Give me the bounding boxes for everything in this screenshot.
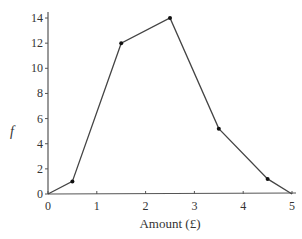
x-axis-line (48, 193, 296, 194)
x-tick-label: 3 (191, 199, 197, 213)
data-point-markers (70, 16, 269, 183)
y-tick-label: 14 (31, 11, 43, 25)
x-tick-label: 5 (289, 199, 295, 213)
y-axis-ticks: 02468101214 (31, 11, 48, 201)
data-point-marker (119, 41, 123, 45)
frequency-polygon-chart: 02468101214 012345 f Amount (£) (0, 0, 302, 239)
y-tick-label: 10 (31, 61, 43, 75)
x-axis-label: Amount (£) (139, 216, 200, 231)
frequency-polygon-line (48, 18, 292, 194)
y-tick-label: 6 (37, 112, 43, 126)
data-point-marker (168, 16, 172, 20)
x-tick-label: 0 (45, 199, 51, 213)
axes (48, 12, 296, 194)
data-point-marker (70, 179, 74, 183)
y-axis-label: f (10, 124, 16, 139)
y-tick-label: 8 (37, 86, 43, 100)
y-tick-label: 0 (37, 187, 43, 201)
data-point-marker (217, 127, 221, 131)
y-tick-label: 2 (37, 162, 43, 176)
x-tick-label: 1 (94, 199, 100, 213)
y-tick-label: 12 (31, 36, 43, 50)
x-tick-label: 2 (143, 199, 149, 213)
data-point-marker (266, 177, 270, 181)
y-tick-label: 4 (37, 137, 43, 151)
x-tick-label: 4 (240, 199, 246, 213)
